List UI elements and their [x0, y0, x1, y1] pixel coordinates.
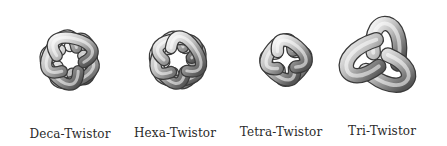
caption-deca-twistor: Deca-Twistor: [29, 127, 110, 141]
tetra-twistor-knot: [238, 14, 334, 110]
deca-twistor-knot: [10, 2, 130, 120]
tri-twistor-knot: [332, 6, 432, 110]
caption-tri-twistor: Tri-Twistor: [348, 124, 416, 138]
caption-hexa-twistor: Hexa-Twistor: [134, 126, 216, 140]
caption-tetra-twistor: Tetra-Twistor: [240, 125, 322, 139]
hexa-twistor-knot: [123, 4, 233, 116]
